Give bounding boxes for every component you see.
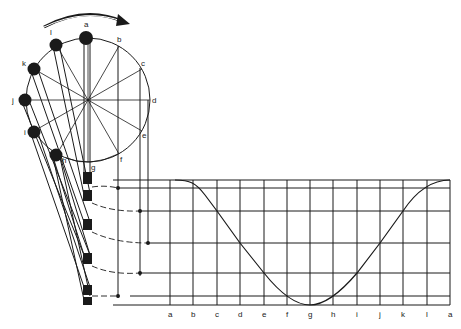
svg-text:f: f (120, 155, 123, 164)
wheel-group (19, 14, 171, 305)
connecting-rods (22, 38, 90, 300)
svg-text:h: h (331, 310, 335, 319)
piston-blocks (83, 172, 92, 305)
svg-text:e: e (142, 131, 147, 140)
svg-text:l: l (426, 310, 428, 319)
svg-text:g: g (308, 310, 312, 319)
svg-text:i: i (356, 310, 358, 319)
svg-text:b: b (191, 310, 196, 319)
svg-text:d: d (238, 310, 242, 319)
projection-verticals (118, 46, 148, 298)
svg-text:i: i (24, 128, 26, 137)
svg-text:f: f (286, 310, 289, 319)
svg-text:c: c (215, 310, 219, 319)
svg-text:d: d (152, 96, 156, 105)
svg-text:l: l (50, 28, 52, 37)
svg-text:k: k (22, 59, 27, 68)
svg-text:j: j (378, 310, 381, 319)
svg-text:b: b (117, 35, 122, 44)
svg-text:a: a (168, 310, 173, 319)
svg-text:c: c (141, 59, 145, 68)
svg-text:k: k (401, 310, 406, 319)
axis-labels: a b c d e f g h i j k l a (168, 310, 453, 319)
wheel-spokes (26, 38, 150, 162)
svg-text:e: e (262, 310, 267, 319)
svg-text:j: j (11, 96, 14, 105)
crank-sine-diagram: a b c d e f g h i j k l a (0, 0, 461, 329)
svg-text:a: a (448, 310, 453, 319)
sine-grid (170, 180, 450, 305)
svg-text:a: a (84, 20, 89, 29)
svg-text:h: h (62, 156, 66, 165)
svg-text:g: g (91, 163, 95, 172)
